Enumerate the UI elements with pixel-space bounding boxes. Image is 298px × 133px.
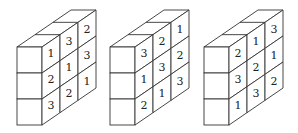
cell-number: 1 xyxy=(66,61,73,74)
cell-number: 2 xyxy=(48,73,55,86)
cell-number: 1 xyxy=(235,99,242,112)
cell-number: 2 xyxy=(66,87,73,100)
cell-number: 1 xyxy=(159,87,166,100)
cube-block-1: 132213321 xyxy=(17,10,96,125)
cell-number: 1 xyxy=(48,47,55,60)
cell-number: 3 xyxy=(84,49,91,62)
cube-block-3: 213321132 xyxy=(204,10,283,125)
front-cell xyxy=(110,73,135,99)
cell-number: 1 xyxy=(253,35,260,48)
cube-block-2: 321132213 xyxy=(110,10,189,125)
cell-number: 2 xyxy=(84,23,91,36)
front-cell xyxy=(204,47,229,73)
figure-canvas: 132213321 321132213 213321132 xyxy=(0,0,298,133)
cell-number: 1 xyxy=(177,23,184,36)
cell-number: 3 xyxy=(141,47,148,60)
cell-number: 1 xyxy=(271,49,278,62)
cell-number: 2 xyxy=(159,35,166,48)
cell-number: 3 xyxy=(66,35,73,48)
cell-number: 1 xyxy=(84,75,91,88)
front-cell xyxy=(17,99,42,125)
cell-number: 2 xyxy=(271,75,278,88)
front-cell xyxy=(204,99,229,125)
cell-number: 2 xyxy=(235,47,242,60)
cell-number: 2 xyxy=(177,49,184,62)
front-cell xyxy=(204,73,229,99)
cell-number: 2 xyxy=(141,99,148,112)
cell-number: 3 xyxy=(177,75,184,88)
cell-number: 3 xyxy=(253,87,260,100)
cell-number: 3 xyxy=(48,99,55,112)
cell-number: 3 xyxy=(271,23,278,36)
cell-number: 2 xyxy=(253,61,260,74)
cell-number: 3 xyxy=(235,73,242,86)
front-cell xyxy=(17,73,42,99)
front-cell xyxy=(17,47,42,73)
front-cell xyxy=(110,47,135,73)
cell-number: 3 xyxy=(159,61,166,74)
cell-number: 1 xyxy=(141,73,148,86)
front-cell xyxy=(110,99,135,125)
